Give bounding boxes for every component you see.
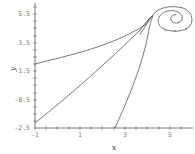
- x-tick-label: 3: [123, 131, 127, 139]
- y-axis-label: y: [8, 66, 17, 72]
- x-tick-label: 1: [78, 131, 82, 139]
- trajectory-4: [140, 15, 153, 34]
- y-tick-label: 3.5: [18, 39, 30, 47]
- spiral-to-focus: [153, 7, 192, 32]
- y-tick-label: -2.5: [14, 124, 30, 132]
- y-tick-label: 1.5: [18, 67, 30, 75]
- x-axis-label: x: [112, 143, 117, 152]
- x-tick-label: 5: [168, 131, 172, 139]
- trajectory-3: [115, 16, 153, 128]
- phase-portrait-chart: 5.5 3.5 1.5 -0.5 -2.5 -1 1 3 5 y x: [0, 0, 195, 154]
- trajectory-2: [35, 16, 152, 123]
- y-tick-label: -0.5: [14, 96, 30, 104]
- y-tick-label: 5.5: [18, 10, 30, 18]
- trajectory-1: [35, 15, 153, 64]
- x-tick-label: -1: [31, 131, 39, 139]
